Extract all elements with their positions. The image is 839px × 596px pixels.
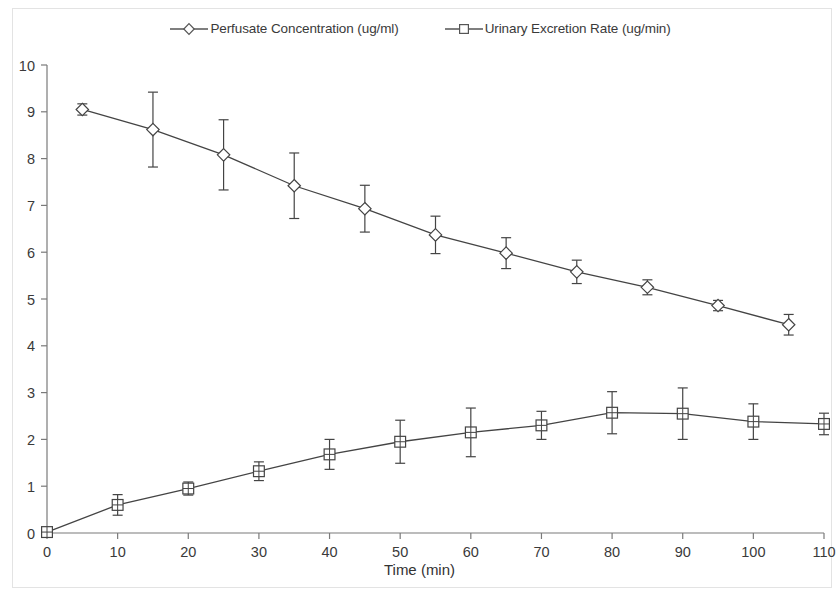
data-point-marker bbox=[429, 229, 441, 241]
y-axis-tick-label: 10 bbox=[19, 58, 35, 74]
data-point-marker bbox=[288, 180, 300, 192]
data-point-marker bbox=[782, 319, 794, 331]
data-point-marker bbox=[395, 436, 406, 447]
data-point-marker bbox=[641, 281, 653, 293]
y-axis-tick-label: 8 bbox=[27, 151, 35, 167]
y-axis-tick-label: 9 bbox=[27, 104, 35, 120]
data-point-marker bbox=[76, 103, 88, 115]
data-point-marker bbox=[359, 202, 371, 214]
x-axis-tick-label: 90 bbox=[675, 544, 691, 560]
axis-layer: 0123456789100102030405060708090100110 bbox=[19, 58, 836, 561]
y-axis-tick-label: 5 bbox=[27, 292, 35, 308]
x-axis-tick-label: 50 bbox=[392, 544, 408, 560]
data-point-marker bbox=[183, 483, 194, 494]
series-line bbox=[47, 413, 824, 532]
data-point-marker bbox=[112, 500, 123, 511]
x-axis-tick-label: 60 bbox=[463, 544, 479, 560]
y-axis-tick-label: 4 bbox=[27, 338, 35, 354]
data-point-marker bbox=[500, 247, 512, 259]
x-axis-tick-label: 80 bbox=[604, 544, 620, 560]
x-axis-tick-label: 40 bbox=[321, 544, 337, 560]
data-point-marker bbox=[465, 427, 476, 438]
data-point-marker bbox=[748, 416, 759, 427]
data-point-marker bbox=[42, 527, 53, 538]
x-axis-tick-label: 110 bbox=[812, 544, 835, 560]
data-point-marker bbox=[324, 449, 335, 460]
x-axis-tick-label: 30 bbox=[251, 544, 267, 560]
data-point-marker bbox=[571, 266, 583, 278]
series-layer bbox=[42, 92, 830, 537]
x-axis-tick-label: 20 bbox=[180, 544, 196, 560]
data-series-perfusate bbox=[76, 92, 795, 335]
x-axis-tick-label: 10 bbox=[110, 544, 126, 560]
y-axis-tick-label: 7 bbox=[27, 198, 35, 214]
y-axis-tick-label: 3 bbox=[27, 385, 35, 401]
x-axis-title: Time (min) bbox=[0, 561, 839, 578]
x-axis-tick-label: 70 bbox=[533, 544, 549, 560]
chart-figure: Perfusate Concentration (ug/ml) Urinary … bbox=[0, 0, 839, 596]
data-point-marker bbox=[254, 466, 265, 477]
y-axis-tick-label: 0 bbox=[27, 526, 35, 542]
chart-plot-area: 0123456789100102030405060708090100110 bbox=[0, 0, 839, 596]
data-point-marker bbox=[217, 149, 229, 161]
data-point-marker bbox=[607, 407, 618, 418]
y-axis-tick-label: 6 bbox=[27, 245, 35, 261]
y-axis-tick-label: 1 bbox=[27, 479, 35, 495]
x-axis-tick-label: 100 bbox=[741, 544, 765, 560]
data-point-marker bbox=[536, 420, 547, 431]
data-point-marker bbox=[677, 408, 688, 419]
data-series-urinary bbox=[42, 388, 830, 538]
x-axis-tick-label: 0 bbox=[43, 544, 51, 560]
data-point-marker bbox=[712, 299, 724, 311]
data-point-marker bbox=[147, 123, 159, 135]
data-point-marker bbox=[819, 419, 830, 430]
y-axis-tick-label: 2 bbox=[27, 432, 35, 448]
